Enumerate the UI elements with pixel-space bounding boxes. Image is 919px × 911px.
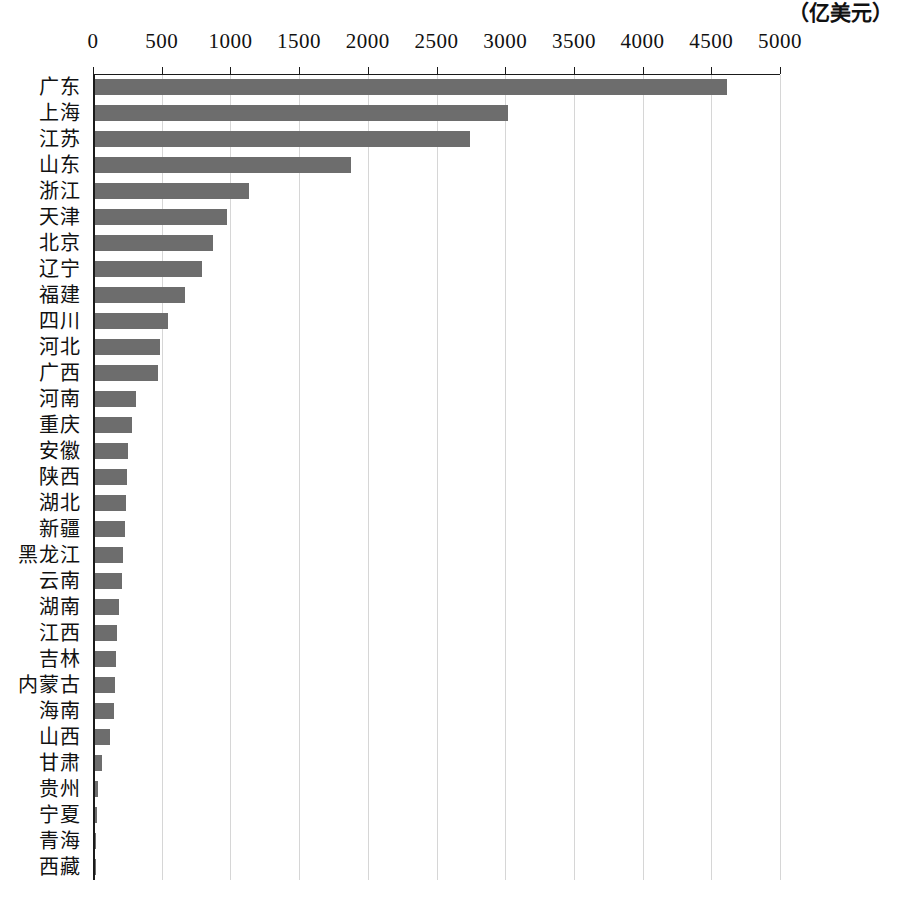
x-axis-tick-label: 0	[88, 28, 99, 54]
bar	[95, 651, 116, 667]
x-axis-tick-label: 2000	[346, 28, 390, 54]
bar-row: 甘肃	[93, 750, 780, 776]
category-label: 云南	[0, 569, 81, 593]
x-axis-tick-labels: 0500100015002000250030003500400045005000	[0, 28, 919, 62]
category-label: 辽宁	[0, 257, 81, 281]
category-label: 河北	[0, 335, 81, 359]
bar	[95, 261, 202, 277]
category-label: 北京	[0, 231, 81, 255]
x-axis-tick-mark	[299, 67, 300, 74]
bar-row: 四川	[93, 308, 780, 334]
x-axis-tick-label: 4500	[689, 28, 733, 54]
category-label: 广西	[0, 361, 81, 385]
category-label: 上海	[0, 101, 81, 125]
x-axis-tick-mark	[505, 67, 506, 74]
bar-row: 天津	[93, 204, 780, 230]
bar	[95, 573, 122, 589]
category-label: 湖北	[0, 491, 81, 515]
bar-row: 西藏	[93, 854, 780, 880]
bar-row: 吉林	[93, 646, 780, 672]
axis-unit-label: （亿美元）	[788, 0, 893, 26]
bar	[95, 79, 727, 95]
x-axis-tick-mark	[162, 67, 163, 74]
bar	[95, 443, 128, 459]
x-axis-tick-mark	[437, 67, 438, 74]
x-axis-tick-mark	[230, 67, 231, 74]
category-label: 宁夏	[0, 803, 81, 827]
bar-row: 湖北	[93, 490, 780, 516]
bar-row: 山东	[93, 152, 780, 178]
bar	[95, 183, 249, 199]
bar	[95, 235, 213, 251]
bar-row: 江苏	[93, 126, 780, 152]
x-axis-tick-mark	[368, 67, 369, 74]
bar-row: 河北	[93, 334, 780, 360]
category-label: 重庆	[0, 413, 81, 437]
x-axis-tick-label: 3500	[552, 28, 596, 54]
bar-row: 黑龙江	[93, 542, 780, 568]
x-axis-tick-mark	[93, 67, 94, 74]
bar	[95, 521, 125, 537]
bar	[95, 781, 98, 797]
gridline	[780, 75, 781, 880]
bar-row: 北京	[93, 230, 780, 256]
category-label: 天津	[0, 205, 81, 229]
plot-area: 广东上海江苏山东浙江天津北京辽宁福建四川河北广西河南重庆安徽陕西湖北新疆黑龙江云…	[93, 74, 780, 880]
x-axis-tick-label: 1500	[277, 28, 321, 54]
x-axis-tick-label: 3000	[483, 28, 527, 54]
bar	[95, 209, 227, 225]
category-label: 湖南	[0, 595, 81, 619]
bar	[95, 287, 185, 303]
bar-row: 上海	[93, 100, 780, 126]
bar-row: 陕西	[93, 464, 780, 490]
bar	[95, 339, 160, 355]
bar-row: 河南	[93, 386, 780, 412]
x-axis-tick-mark	[574, 67, 575, 74]
bar-row: 浙江	[93, 178, 780, 204]
category-label: 青海	[0, 829, 81, 853]
category-label: 西藏	[0, 855, 81, 879]
category-label: 广东	[0, 75, 81, 99]
bar	[95, 469, 127, 485]
category-label: 江苏	[0, 127, 81, 151]
category-label: 安徽	[0, 439, 81, 463]
bar-row: 贵州	[93, 776, 780, 802]
x-axis-tick-mark	[643, 67, 644, 74]
bar-row: 广东	[93, 74, 780, 100]
x-axis-tick-mark	[711, 67, 712, 74]
x-axis-tick-label: 2500	[415, 28, 459, 54]
bar-rows: 广东上海江苏山东浙江天津北京辽宁福建四川河北广西河南重庆安徽陕西湖北新疆黑龙江云…	[93, 74, 780, 880]
category-label: 陕西	[0, 465, 81, 489]
bar	[95, 729, 110, 745]
bar-row: 湖南	[93, 594, 780, 620]
category-label: 江西	[0, 621, 81, 645]
category-label: 内蒙古	[0, 673, 81, 697]
bar-row: 内蒙古	[93, 672, 780, 698]
bar	[95, 157, 351, 173]
category-label: 福建	[0, 283, 81, 307]
bar-row: 福建	[93, 282, 780, 308]
bar-row: 新疆	[93, 516, 780, 542]
bar-row: 安徽	[93, 438, 780, 464]
bar-row: 辽宁	[93, 256, 780, 282]
category-label: 贵州	[0, 777, 81, 801]
bar	[95, 599, 119, 615]
bar	[95, 391, 136, 407]
x-axis-tick-mark	[780, 67, 781, 74]
x-axis-tick-label: 500	[145, 28, 178, 54]
bar	[95, 131, 470, 147]
category-label: 甘肃	[0, 751, 81, 775]
bar	[95, 547, 123, 563]
category-label: 浙江	[0, 179, 81, 203]
x-axis-tick-label: 5000	[758, 28, 802, 54]
bar	[95, 105, 508, 121]
x-axis-tick-label: 4000	[621, 28, 665, 54]
bar	[95, 495, 126, 511]
category-label: 山东	[0, 153, 81, 177]
bar	[95, 417, 132, 433]
bar	[95, 365, 158, 381]
category-label: 黑龙江	[0, 543, 81, 567]
category-label: 山西	[0, 725, 81, 749]
bar-row: 重庆	[93, 412, 780, 438]
bar	[95, 313, 168, 329]
